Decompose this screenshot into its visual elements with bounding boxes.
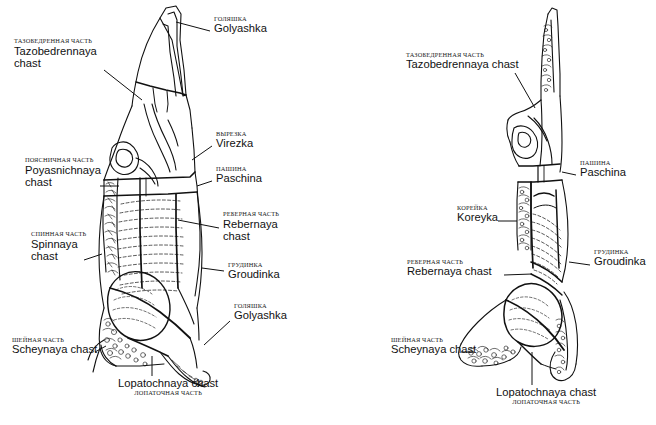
cut-label-ru: ЛОПАТОЧНАЯ ЧАСТЬ — [496, 399, 596, 406]
cut-label-latin: Lopatochnaya chast — [496, 387, 596, 399]
cut-label-latin: Paschina — [580, 167, 626, 179]
cut-label-scheynaya: ШЕЙНАЯ ЧАСТЬScheynaya chast — [12, 337, 97, 355]
cut-label-latin: Lopatochnaya chast — [118, 378, 218, 390]
cut-label-koreyka: КОРЕЙКАKoreyka — [457, 205, 498, 223]
cut-label-latin: Paschina — [216, 173, 262, 185]
cut-label-latin: Golyashka — [234, 310, 287, 322]
beef-cutting-chart-page: ГОЛЯШКАGolyashkaТАЗОБЕДРЕННАЯ ЧАСТЬTazob… — [0, 0, 656, 425]
cut-label-tazobedrennaya: ТАЗОБЕДРЕННАЯ ЧАСТЬTazobedrennaya chast — [406, 52, 519, 70]
cut-label-latin: Groudinka — [594, 256, 646, 268]
cut-label-ru: СПИННАЯ ЧАСТЬ — [31, 231, 86, 238]
cut-label-lopatochnaya: Lopatochnaya chastЛОПАТОЧНАЯ ЧАСТЬ — [118, 378, 218, 396]
cut-label-ru: РЕБЕРНАЯ ЧАСТЬ — [223, 211, 279, 218]
cut-label-rebernaya: РЕБЕРНАЯ ЧАСТЬRebernaya chast — [407, 259, 492, 277]
cut-label-latin: Tazobedrennaya chast — [406, 59, 519, 71]
cut-label-paschina: ПАШИНАPaschina — [216, 166, 262, 184]
cut-label-golyashka-bottom: ГОЛЯШКАGolyashka — [234, 303, 287, 321]
cut-label-latin: Rebernaya chast — [223, 218, 279, 243]
diagram-beef-carcass-side-view: ТАЗОБЕДРЕННАЯ ЧАСТЬTazobedrennaya chastП… — [328, 0, 656, 425]
cut-label-rebernaya: РЕБЕРНАЯ ЧАСТЬRebernaya chast — [223, 211, 279, 243]
cut-label-virezka: ВЫРЕЗКАVirezka — [216, 131, 253, 149]
cut-label-ru: ПОЯСНИЧНАЯ ЧАСТЬ — [25, 157, 101, 164]
cut-label-groudinka: ГРУДИНКАGroudinka — [228, 262, 280, 280]
cut-label-spinnaya: СПИННАЯ ЧАСТЬSpinnaya chast — [31, 231, 86, 263]
cut-label-paschina: ПАШИНАPaschina — [580, 160, 626, 178]
cut-label-latin: Tazobedrennaya chast — [14, 45, 97, 70]
cut-label-latin: Scheynaya chast — [391, 344, 476, 356]
cut-label-ru: ЛОПАТОЧНАЯ ЧАСТЬ — [118, 390, 218, 397]
cut-label-poyasnichnaya: ПОЯСНИЧНАЯ ЧАСТЬPoyasnichnaya chast — [25, 157, 101, 189]
cut-label-scheynaya: ШЕЙНАЯ ЧАСТЬScheynaya chast — [391, 337, 476, 355]
cut-label-latin: Koreyka — [457, 212, 498, 224]
cut-label-latin: Groudinka — [228, 269, 280, 281]
cut-label-latin: Golyashka — [214, 23, 267, 35]
cut-label-ru: ТАЗОБЕДРЕННАЯ ЧАСТЬ — [14, 38, 97, 45]
cut-label-groudinka: ГРУДИНКАGroudinka — [594, 249, 646, 267]
cut-label-latin: Scheynaya chast — [12, 344, 97, 356]
cut-label-lopatochnaya: Lopatochnaya chastЛОПАТОЧНАЯ ЧАСТЬ — [496, 387, 596, 405]
cut-label-latin: Poyasnichnaya chast — [25, 164, 101, 189]
cut-label-latin: Rebernaya chast — [407, 266, 492, 278]
cut-label-tazobedrennaya: ТАЗОБЕДРЕННАЯ ЧАСТЬTazobedrennaya chast — [14, 38, 97, 70]
cut-label-golyashka-top: ГОЛЯШКАGolyashka — [214, 16, 267, 34]
cut-label-latin: Virezka — [216, 138, 253, 150]
diagram-beef-carcass-rear-view: ГОЛЯШКАGolyashkaТАЗОБЕДРЕННАЯ ЧАСТЬTazob… — [0, 0, 328, 425]
cut-label-latin: Spinnaya chast — [31, 238, 86, 263]
